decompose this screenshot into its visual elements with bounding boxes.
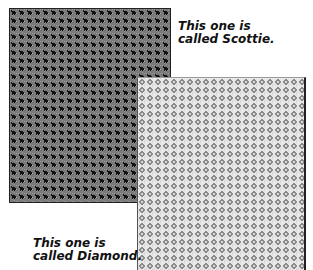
diamond-pattern-swatch <box>137 77 306 270</box>
diamond-caption: This one is called Diamond. <box>33 237 142 263</box>
scottie-caption-line-2: called Scottie. <box>178 33 275 46</box>
scottie-caption: This one is called Scottie. <box>178 20 275 46</box>
diamond-pattern-graphic <box>138 78 304 270</box>
diamond-caption-line-2: called Diamond. <box>33 250 142 263</box>
pattern-comparison-figure: This one is called Scottie. This one is … <box>0 0 313 270</box>
